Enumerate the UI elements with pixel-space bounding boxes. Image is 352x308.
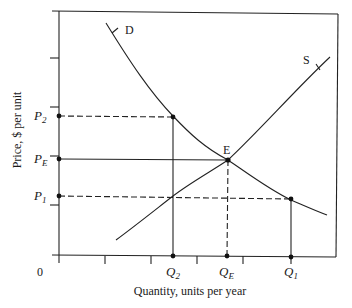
x-axis-title: Quantity, units per year <box>134 284 247 298</box>
y-axis-title: Price, $ per unit <box>10 91 24 168</box>
plot-frame <box>52 11 338 257</box>
price-label-p2: P2 <box>33 108 47 125</box>
demand-label: D <box>125 23 134 37</box>
p2-guide <box>59 116 173 117</box>
p1-guide <box>59 196 291 199</box>
demand-curve <box>106 23 327 215</box>
demand-label-leader <box>112 28 118 33</box>
quantity-label-qe: QE <box>219 264 234 281</box>
equilibrium-label: E <box>223 143 230 157</box>
points <box>57 114 294 260</box>
quantity-label-q2: Q2 <box>166 264 180 281</box>
x-axis-ticks <box>105 256 291 264</box>
y-axis <box>50 11 59 263</box>
supply-demand-diagram: D S E P2 PE P1 Q2 QE Q1 0 <box>0 0 352 308</box>
pe-guide <box>59 159 228 160</box>
qe-guide <box>227 160 228 256</box>
price-label-pe: PE <box>33 151 48 168</box>
quantity-label-q1: Q1 <box>284 264 298 281</box>
origin-label: 0 <box>37 265 43 279</box>
supply-label: S <box>303 53 310 67</box>
price-label-p1: P1 <box>33 188 46 205</box>
